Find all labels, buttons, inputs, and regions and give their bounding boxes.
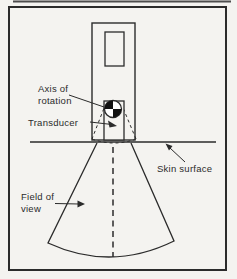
axis-of-rotation-marker-icon — [105, 101, 122, 118]
label-axis-of-rotation: Axis of rotation — [38, 83, 72, 106]
label-field-of-view: Field of view — [21, 191, 54, 214]
leader-field-of-view — [55, 201, 85, 208]
field-of-view-sector — [48, 143, 174, 257]
arrowhead-field-of-view-icon — [78, 201, 86, 208]
diagram-linework — [0, 0, 237, 279]
label-skin-surface: Skin surface — [157, 163, 212, 175]
label-transducer: Transducer — [28, 117, 78, 129]
figure-canvas: Axis of rotation Transducer Skin surface… — [0, 0, 237, 279]
leader-skin-surface-line — [170, 148, 185, 162]
leader-skin-surface — [166, 144, 186, 163]
leader-field-of-view-line — [55, 204, 79, 205]
